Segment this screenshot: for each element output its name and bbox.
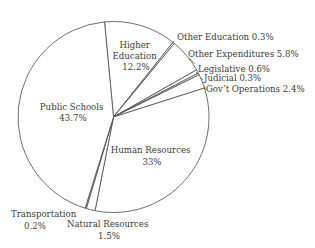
- label-higher-education-line1: Higher: [119, 40, 150, 50]
- label-higher-education-line2: Education: [113, 51, 158, 61]
- label-human-resources-line1: Human Resources: [111, 145, 191, 155]
- label-other-education: Other Education 0.3%: [177, 32, 274, 42]
- pie-chart: Higher Education 12.2% Other Education 0…: [0, 0, 315, 248]
- label-other-expenditures: Other Expenditures 5.8%: [188, 49, 299, 59]
- label-public-schools-value: 43.7%: [59, 113, 86, 123]
- label-human-resources-value: 33%: [142, 157, 161, 167]
- label-higher-education-value: 12.2%: [122, 62, 149, 72]
- label-natural-resources: Natural Resources 1.5%: [67, 219, 151, 241]
- label-govt-operations: Gov’t Operations 2.4%: [206, 84, 305, 94]
- label-natural-resources-value: 1.5%: [98, 231, 120, 241]
- label-natural-resources-line1: Natural Resources: [67, 219, 148, 229]
- label-judicial: Judicial 0.3%: [203, 73, 261, 83]
- label-public-schools-line1: Public Schools: [40, 102, 104, 112]
- label-transportation-line1: Transportation: [11, 209, 77, 219]
- label-transportation-value: 0.2%: [24, 221, 46, 231]
